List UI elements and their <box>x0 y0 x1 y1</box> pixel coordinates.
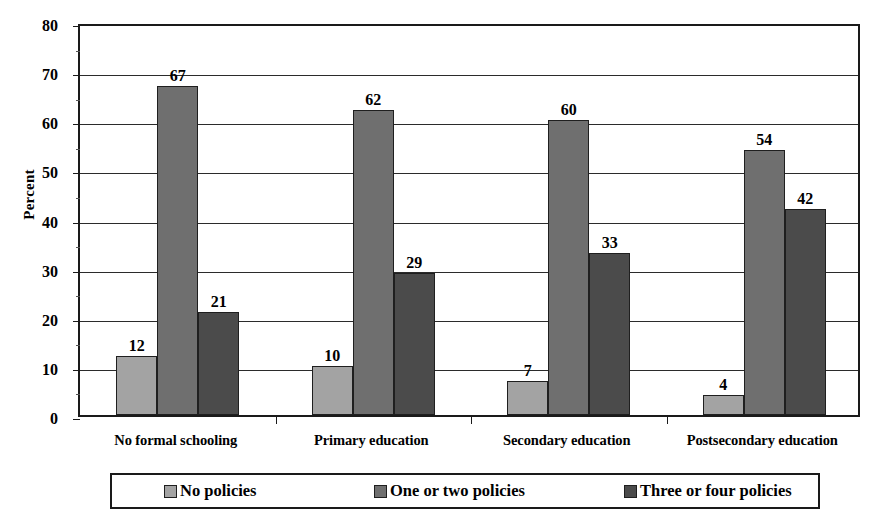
y-axis-title: Percent <box>21 140 38 250</box>
bar-value-label: 67 <box>170 68 186 84</box>
y-axis-tick-mark <box>73 124 80 125</box>
x-axis-tick-mark <box>667 415 668 424</box>
legend-item[interactable]: No policies <box>164 483 257 500</box>
bar: 42 <box>785 209 826 415</box>
y-axis-tick-mark <box>73 419 80 420</box>
bar: 7 <box>507 381 548 415</box>
legend-item[interactable]: Three or four policies <box>624 483 792 500</box>
bar: 29 <box>394 273 435 415</box>
y-axis-tick-mark <box>73 173 80 174</box>
bar-group: 126721 <box>80 26 276 415</box>
bar-value-label: 60 <box>561 102 577 118</box>
x-axis-category-label: No formal schooling <box>78 432 274 449</box>
bar-value-label: 42 <box>797 191 813 207</box>
y-axis-tick-mark <box>73 26 80 27</box>
bar-value-label: 12 <box>129 338 145 354</box>
plot-area: 010203040506070801267211062297603345442 <box>78 24 860 417</box>
bar: 12 <box>116 356 157 415</box>
bar-value-label: 62 <box>365 92 381 108</box>
y-axis-tick-label: 10 <box>14 362 58 378</box>
legend-label: Three or four policies <box>640 483 792 500</box>
bar: 4 <box>703 395 744 415</box>
x-axis-category-label: Secondary education <box>469 432 665 449</box>
bar-group: 76033 <box>471 26 667 415</box>
x-axis-tick-mark <box>276 415 277 424</box>
bar-value-label: 29 <box>406 255 422 271</box>
x-axis-category-label: Primary education <box>274 432 470 449</box>
y-axis-tick-label: 0 <box>14 411 58 427</box>
x-axis-category-label: Postsecondary education <box>665 432 861 449</box>
bar: 62 <box>353 110 394 415</box>
bar: 33 <box>589 253 630 415</box>
bar: 67 <box>157 86 198 415</box>
legend-swatch-icon <box>624 485 637 498</box>
chart-legend: No policiesOne or two policiesThree or f… <box>110 473 820 509</box>
legend-swatch-icon <box>374 485 387 498</box>
legend-swatch-icon <box>164 485 177 498</box>
legend-item[interactable]: One or two policies <box>374 483 525 500</box>
y-axis-tick-mark <box>73 75 80 76</box>
y-axis-tick-label: 80 <box>14 18 58 34</box>
y-axis-tick-label: 60 <box>14 116 58 132</box>
bar: 60 <box>548 120 589 415</box>
bar-value-label: 33 <box>602 235 618 251</box>
bar: 54 <box>744 150 785 415</box>
bar-value-label: 7 <box>524 363 532 379</box>
bar-value-label: 54 <box>756 132 772 148</box>
legend-label: One or two policies <box>390 483 525 500</box>
bar: 10 <box>312 366 353 415</box>
y-axis-tick-mark <box>73 223 80 224</box>
bar-value-label: 10 <box>324 348 340 364</box>
bar-value-label: 4 <box>719 377 727 393</box>
bar-group: 106229 <box>276 26 472 415</box>
y-axis-tick-label: 70 <box>14 67 58 83</box>
bar-value-label: 21 <box>211 294 227 310</box>
y-axis-tick-mark <box>73 321 80 322</box>
y-axis-tick-label: 50 <box>14 165 58 181</box>
bar-chart-figure: Percent 01020304050607080126721106229760… <box>0 0 872 523</box>
y-axis-tick-label: 40 <box>14 215 58 231</box>
bar: 21 <box>198 312 239 415</box>
y-axis-tick-mark <box>73 370 80 371</box>
y-axis-tick-label: 20 <box>14 313 58 329</box>
x-axis-tick-mark <box>471 415 472 424</box>
y-axis-tick-mark <box>73 272 80 273</box>
legend-label: No policies <box>180 483 257 500</box>
bar-group: 45442 <box>667 26 863 415</box>
y-axis-tick-label: 30 <box>14 264 58 280</box>
